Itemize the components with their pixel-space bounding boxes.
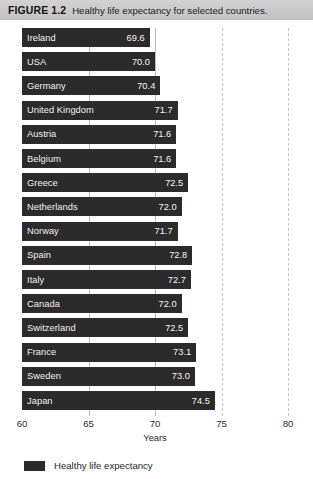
bar-value-label: 72.5 [165,323,183,333]
bar-value-label: 71.6 [153,154,171,164]
bar-value-label: 70.4 [137,81,155,91]
bar-row: United Kingdom71.7 [22,101,288,120]
bar-norway: Norway71.7 [22,222,178,241]
bar-row: Greece72.5 [22,173,288,192]
bar-category-label: Norway [27,226,59,236]
bar-group: Ireland69.6USA70.0Germany70.4United King… [22,28,288,416]
bar-usa: USA70.0 [22,52,155,71]
bar-category-label: Germany [27,81,66,91]
bar-row: Japan74.5 [22,391,288,410]
bar-ireland: Ireland69.6 [22,28,150,47]
bar-greece: Greece72.5 [22,173,188,192]
bar-france: France73.1 [22,343,196,362]
bar-value-label: 71.7 [155,105,173,115]
bar-value-label: 71.7 [155,226,173,236]
bar-row: Germany70.4 [22,76,288,95]
x-tick-80: 80 [283,418,294,429]
bar-row: Norway71.7 [22,222,288,241]
bar-category-label: Netherlands [27,202,78,212]
chart-plot-area: Ireland69.6USA70.0Germany70.4United King… [0,20,313,479]
bar-value-label: 72.7 [168,275,186,285]
bar-category-label: Greece [27,178,58,188]
x-axis-line [22,416,288,417]
bar-value-label: 72.0 [158,202,176,212]
bar-value-label: 72.5 [165,178,183,188]
bar-row: Belgium71.6 [22,149,288,168]
bar-row: Sweden73.0 [22,367,288,386]
bar-category-label: Ireland [27,33,56,43]
figure-number: FIGURE 1.2 [8,4,66,16]
bar-value-label: 69.6 [127,33,145,43]
bar-austria: Austria71.6 [22,125,176,144]
bar-japan: Japan74.5 [22,391,215,410]
figure-caption-bar: FIGURE 1.2 Healthy life expectancy for s… [0,0,313,20]
bar-row: Switzerland72.5 [22,318,288,337]
bar-switzerland: Switzerland72.5 [22,318,188,337]
bar-row: Canada72.0 [22,294,288,313]
bar-category-label: Japan [27,396,53,406]
bar-united-kingdom: United Kingdom71.7 [22,101,178,120]
bar-netherlands: Netherlands72.0 [22,197,182,216]
bar-row: USA70.0 [22,52,288,71]
legend-swatch-healthy-life-expectancy [24,461,45,471]
bar-belgium: Belgium71.6 [22,149,176,168]
bar-category-label: Belgium [27,154,61,164]
bar-category-label: Sweden [27,371,61,381]
bar-row: Ireland69.6 [22,28,288,47]
x-tick-60: 60 [17,418,28,429]
bar-value-label: 73.0 [172,371,190,381]
x-axis-title: Years [22,433,288,443]
x-tick-65: 65 [83,418,94,429]
bar-value-label: 72.8 [169,250,187,260]
bar-sweden: Sweden73.0 [22,367,195,386]
bar-value-label: 71.6 [153,129,171,139]
bar-value-label: 72.0 [158,299,176,309]
bar-category-label: Switzerland [27,323,76,333]
x-tick-75: 75 [216,418,227,429]
bar-row: Spain72.8 [22,246,288,265]
bar-value-label: 74.5 [192,396,210,406]
x-tick-70: 70 [150,418,161,429]
bar-category-label: Austria [27,129,56,139]
bar-row: Italy72.7 [22,270,288,289]
bar-category-label: Canada [27,299,60,309]
bar-category-label: Spain [27,250,51,260]
bar-category-label: France [27,347,56,357]
bar-italy: Italy72.7 [22,270,191,289]
bar-value-label: 73.1 [173,347,191,357]
bar-category-label: USA [27,57,46,67]
bar-category-label: United Kingdom [27,105,94,115]
bar-germany: Germany70.4 [22,76,160,95]
bar-value-label: 70.0 [132,57,150,67]
bar-canada: Canada72.0 [22,294,182,313]
chart-legend: Healthy life expectancy [24,460,153,471]
legend-label-healthy-life-expectancy: Healthy life expectancy [54,460,153,471]
bar-row: France73.1 [22,343,288,362]
figure-container: FIGURE 1.2 Healthy life expectancy for s… [0,0,313,479]
gridline-80 [288,28,290,416]
bar-category-label: Italy [27,275,44,285]
bar-row: Austria71.6 [22,125,288,144]
bar-spain: Spain72.8 [22,246,192,265]
figure-caption-text: Healthy life expectancy for selected cou… [72,5,267,16]
bar-row: Netherlands72.0 [22,197,288,216]
